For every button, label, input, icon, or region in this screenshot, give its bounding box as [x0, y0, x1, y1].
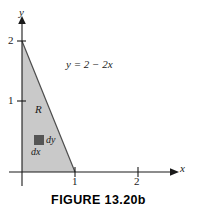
figure-caption: FIGURE 13.20b: [0, 193, 197, 207]
y-axis-label: y: [19, 7, 24, 18]
region-label-R: R: [35, 104, 42, 115]
x-tick-label-2: 2: [134, 176, 140, 187]
figure-13-20b: 2 1 1 2 y x y = 2 − 2x R dy dx FIGURE 13…: [0, 0, 197, 215]
x-axis-label: x: [180, 163, 185, 174]
y-tick-label-1: 1: [8, 95, 14, 106]
differential-element-square: [34, 135, 44, 145]
x-tick-label-1: 1: [72, 176, 78, 187]
plot-area: [0, 0, 197, 215]
curve-equation-label: y = 2 − 2x: [66, 59, 113, 70]
y-tick-label-2: 2: [8, 35, 14, 46]
dx-label: dx: [31, 147, 40, 157]
dy-label: dy: [46, 135, 55, 145]
x-axis-arrowhead: [170, 168, 179, 176]
